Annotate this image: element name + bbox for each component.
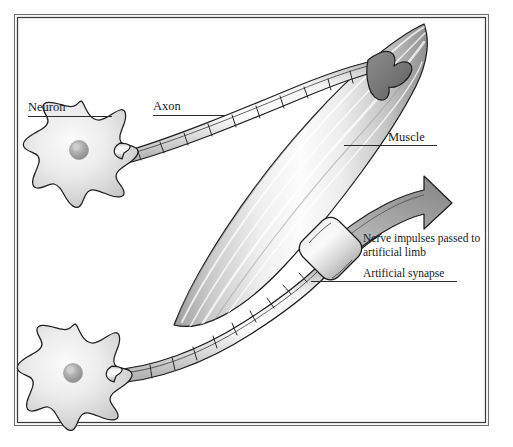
diagram-canvas: Neuron Axon Muscle Nerve impulses passed… — [0, 0, 513, 447]
nucleus-upper-highlight — [73, 144, 80, 151]
nucleus-lower — [64, 364, 83, 383]
label-impulse-line1: Nerve impulses passed to — [363, 232, 480, 245]
neuron-muscle-diagram: Neuron Axon Muscle Nerve impulses passed… — [0, 0, 513, 447]
label-impulse-block: Nerve impulses passed to artificial limb — [363, 232, 480, 258]
label-neuron-text: Neuron — [28, 100, 66, 114]
label-axon: Axon — [153, 99, 226, 116]
neuron-cell-body-lower — [17, 324, 132, 430]
label-artificial-synapse-text: Artificial synapse — [363, 267, 444, 280]
label-muscle-text: Muscle — [388, 130, 425, 144]
nucleus-upper — [70, 141, 89, 160]
nucleus-lower-highlight — [67, 367, 74, 374]
label-impulse-line2: artificial limb — [363, 246, 426, 258]
label-axon-text: Axon — [153, 99, 182, 113]
